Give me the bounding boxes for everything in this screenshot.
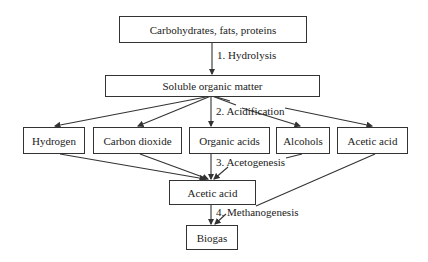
step-acetogenesis-label: 3. Acetogenesis — [216, 156, 285, 168]
node-soluble-organic-matter: Soluble organic matter — [105, 75, 320, 97]
step-methanogenesis-label: 4. Methanogenesis — [216, 206, 298, 218]
node-carbohydrates-fats-proteins: Carbohydrates, fats, proteins — [119, 16, 307, 43]
node-alcohols: Alcohols — [276, 127, 330, 154]
step-hydrolysis-label: 1. Hydrolysis — [217, 49, 276, 61]
node-organic-acids: Organic acids — [189, 127, 270, 154]
node-acetic-acid-lower: Acetic acid — [169, 180, 256, 205]
node-carbon-dioxide: Carbon dioxide — [93, 127, 182, 154]
node-hydrogen: Hydrogen — [23, 127, 85, 154]
node-acetic-acid-upper: Acetic acid — [337, 127, 408, 154]
node-biogas: Biogas — [186, 225, 238, 250]
step-acidification-label: 2. Acidification — [216, 105, 284, 117]
